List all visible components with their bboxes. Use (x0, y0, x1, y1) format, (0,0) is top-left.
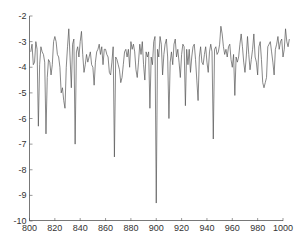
y-tick-label: -9 (18, 190, 26, 200)
y-tick-label: -7 (18, 139, 26, 149)
x-tick-label: 960 (225, 223, 240, 233)
x-tick-label: 840 (73, 223, 88, 233)
line-chart: -2-3-4-5-6-7-8-9-10 80082084086088090092… (0, 0, 305, 247)
x-tick-label: 920 (174, 223, 189, 233)
y-tick-label: -2 (18, 11, 26, 21)
x-tick-label: 1000 (273, 223, 293, 233)
y-tick-label: -6 (18, 114, 26, 124)
y-axis: -2-3-4-5-6-7-8-9-10 (13, 11, 32, 226)
x-tick-label: 860 (98, 223, 113, 233)
x-axis: 8008208408608809009209409609801000 (22, 218, 293, 233)
x-tick-label: 980 (250, 223, 265, 233)
plot-area (31, 26, 290, 203)
x-tick-label: 880 (123, 223, 138, 233)
y-tick-label: -4 (18, 62, 26, 72)
y-tick-label: -3 (18, 37, 26, 47)
y-tick-label: -8 (18, 165, 26, 175)
y-tick-label: -5 (18, 88, 26, 98)
x-tick-label: 800 (22, 223, 37, 233)
x-tick-label: 820 (47, 223, 62, 233)
x-tick-label: 940 (199, 223, 214, 233)
x-tick-label: 900 (149, 223, 164, 233)
data-line (31, 26, 290, 203)
